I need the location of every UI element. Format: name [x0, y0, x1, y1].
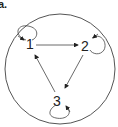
- node-3: 3: [53, 93, 61, 109]
- edge-2-3: [65, 55, 83, 88]
- node-1: 1: [26, 36, 34, 52]
- edge-3-1: [35, 55, 55, 92]
- self-loop-2: [90, 36, 105, 54]
- state-diagram: 1 2 3: [0, 0, 118, 127]
- node-2: 2: [81, 38, 89, 54]
